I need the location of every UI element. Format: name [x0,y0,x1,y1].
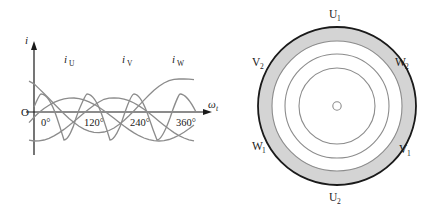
svg-text:1: 1 [262,146,266,155]
waveform-svg: i O ω t 0° 120° 240° 360° [0,0,219,211]
svg-text:i: i [172,53,175,65]
svg-text:2: 2 [337,197,341,206]
curve-label-iW: i W [172,53,185,68]
origin-label: O [21,106,29,118]
curve-label-iU: i U [64,53,75,68]
tick-label-120: 120° [84,117,104,128]
svg-text:W: W [177,59,185,68]
svg-text:2: 2 [405,62,409,71]
stator-svg: U 1 V 2 W 2 W 1 V 1 U 2 [219,0,438,211]
svg-text:1: 1 [407,149,411,158]
terminal-label-w1: W 1 [252,140,266,155]
tick-label-0: 0° [41,117,50,128]
svg-text:2: 2 [260,62,264,71]
terminal-label-v2: V 2 [252,56,264,71]
curve-label-iV: i V [122,53,133,68]
terminal-label-v1: V 1 [399,143,411,158]
svg-text:i: i [122,53,125,65]
svg-text:V: V [127,59,133,68]
terminal-label-u1: U 1 [329,8,341,23]
y-axis [31,41,37,155]
svg-text:i: i [64,53,67,65]
waveform-panel: i O ω t 0° 120° 240° 360° [0,0,219,211]
x-axis-label: ω t [208,98,219,113]
three-phase-motor-figure: i O ω t 0° 120° 240° 360° [0,0,438,211]
svg-text:1: 1 [337,14,341,23]
stator-panel: U 1 V 2 W 2 W 1 V 1 U 2 [219,0,438,211]
terminal-label-u2: U 2 [329,191,341,206]
svg-text:U: U [69,59,75,68]
svg-text:ω: ω [208,98,216,110]
y-axis-label: i [25,34,28,46]
